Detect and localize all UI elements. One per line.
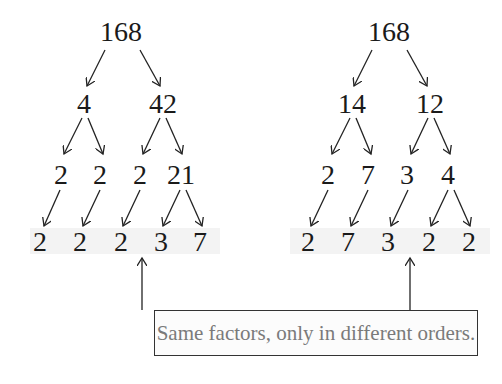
left-root: 168 bbox=[100, 18, 142, 46]
right-l2-a: 2 bbox=[321, 161, 335, 189]
left-l3-c: 2 bbox=[114, 228, 128, 256]
right-root: 168 bbox=[368, 18, 410, 46]
left-l3-e: 7 bbox=[193, 228, 207, 256]
left-l1-b: 42 bbox=[149, 90, 177, 118]
left-l3-b: 2 bbox=[73, 228, 87, 256]
left-l3-d: 3 bbox=[154, 228, 168, 256]
right-l1-b: 12 bbox=[416, 90, 444, 118]
left-l2-d: 21 bbox=[167, 161, 195, 189]
left-l1-a: 4 bbox=[77, 90, 91, 118]
right-l3-d: 2 bbox=[422, 228, 436, 256]
right-l2-c: 3 bbox=[400, 161, 414, 189]
right-l1-a: 14 bbox=[338, 90, 366, 118]
right-l2-d: 4 bbox=[441, 161, 455, 189]
right-l3-e: 2 bbox=[462, 228, 476, 256]
left-l3-a: 2 bbox=[33, 228, 47, 256]
right-l3-a: 2 bbox=[301, 228, 315, 256]
caption-box: Same factors, only in different orders. bbox=[154, 310, 478, 356]
left-l2-c: 2 bbox=[133, 161, 147, 189]
right-l3-c: 3 bbox=[381, 228, 395, 256]
right-l2-b: 7 bbox=[361, 161, 375, 189]
caption-text: Same factors, only in different orders. bbox=[157, 321, 476, 346]
left-l2-b: 2 bbox=[93, 161, 107, 189]
right-l3-b: 7 bbox=[341, 228, 355, 256]
left-l2-a: 2 bbox=[54, 161, 68, 189]
